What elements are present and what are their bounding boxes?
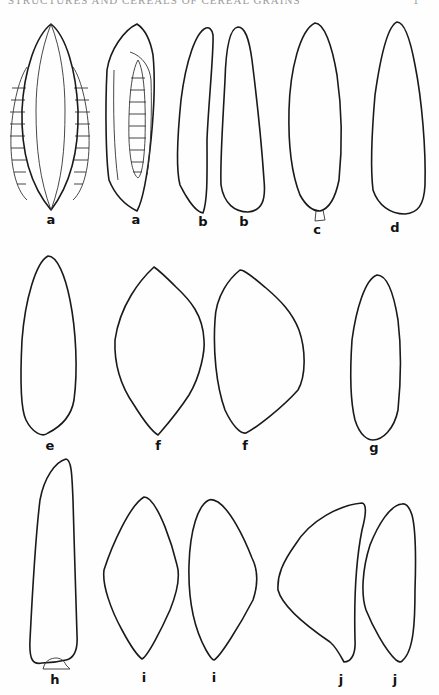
grain-j-outline-2 [363,504,416,662]
grain-f-outline-1 [115,267,204,435]
grain-d-outline [372,22,426,214]
grain-a-face-view [10,24,90,210]
grain-g-outline [351,275,400,440]
grain-i-outline-1 [104,497,179,659]
label-d: d [390,220,399,235]
label-f1: f [155,438,161,453]
grain-f-outline-2 [214,270,304,433]
grain-b-outline-2 [221,27,265,212]
grain-a-side-view [106,24,154,211]
grain-outlines: a a b b c d e f f g h i i j j [0,0,439,695]
figure-plate: STRUCTURES AND CEREALS OF CEREAL GRAINS … [0,0,439,695]
label-b1: b [198,214,207,229]
label-j2: j [392,672,397,687]
label-g: g [369,440,378,455]
label-c: c [313,222,321,237]
grain-i-outline-2 [189,500,257,660]
grain-c [289,23,341,221]
label-b2: b [239,214,248,229]
grain-b-outline-1 [177,28,213,213]
grain-h [30,459,77,669]
label-a1: a [47,212,56,227]
label-i2: i [212,670,216,685]
label-e: e [46,438,55,453]
label-i1: i [142,670,146,685]
label-j1: j [338,672,343,687]
grain-j-outline-1 [278,503,365,662]
grain-e-outline [21,256,76,435]
label-h: h [50,672,59,687]
label-a2: a [132,212,141,227]
label-f2: f [242,438,248,453]
